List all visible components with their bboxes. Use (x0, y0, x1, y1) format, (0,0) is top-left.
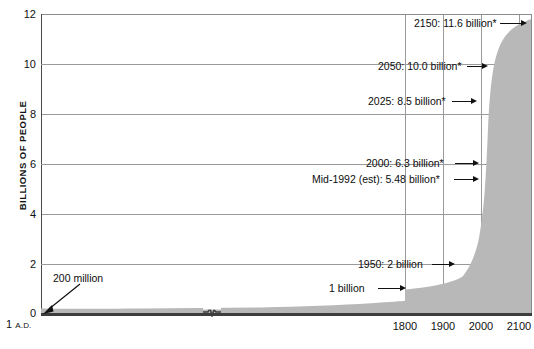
origin-number: 1 (6, 318, 12, 330)
x-tick-2100: 2100 (496, 320, 534, 332)
y-tick-4: 4 (8, 209, 36, 219)
annotation-2000-arrowhead (473, 160, 479, 166)
annotation-2025-label: 2025: 8.5 billion* (368, 96, 446, 107)
annotation-2000-leader-thin (41, 164, 362, 165)
annotation-2150-arrowhead (521, 20, 527, 26)
annotation-2025-arrowhead (471, 98, 477, 104)
origin-era: A.D. (15, 321, 31, 330)
population-chart: BILLIONS OF PEOPLE 12 10 8 6 4 2 0 1800 … (0, 0, 534, 349)
y-tick-12: 12 (8, 9, 36, 19)
annotation-1992-label: Mid-1992 (est): 5.48 billion* (312, 174, 440, 185)
annotation-1950-arrowhead (449, 261, 455, 267)
annotation-1992-arrowhead (473, 176, 479, 182)
annotation-2150-label: 2150: 11.6 billion* (414, 18, 497, 29)
annotation-200-million-arrow (40, 283, 82, 315)
annotation-1-billion-arrowhead (400, 285, 406, 291)
annotation-2050-label: 2050: 10.0 billion* (378, 61, 461, 72)
y-tick-10: 10 (8, 59, 36, 69)
axis-break-icon (203, 305, 221, 317)
annotation-2050-leader-thin (41, 64, 372, 65)
y-tick-8: 8 (8, 109, 36, 119)
annotation-1950-label: 1950: 2 billion (358, 259, 423, 270)
x-axis-origin-label: 1 A.D. (6, 318, 32, 330)
y-tick-6: 6 (8, 159, 36, 169)
annotation-2000-label: 2000: 6.3 billion* (366, 158, 444, 169)
annotation-1-billion-label: 1 billion (329, 283, 365, 294)
annotation-2050-arrowhead (482, 63, 488, 69)
y-tick-2: 2 (8, 259, 36, 269)
y-tick-0: 0 (8, 308, 36, 318)
x-axis-baseline (41, 313, 532, 316)
plot-border-right (531, 14, 532, 314)
annotation-1950-leader-thin (41, 264, 354, 265)
